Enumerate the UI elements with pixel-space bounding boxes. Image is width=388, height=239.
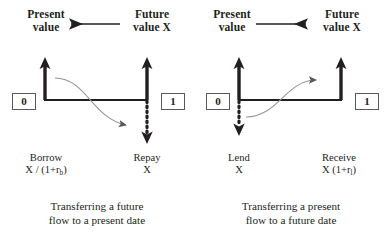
cashflow-bar-t0-up: [234, 57, 245, 100]
header-present-value-label: Present value: [14, 8, 78, 34]
flow-borrow-formula: X / (1+rb): [8, 164, 84, 176]
flow-lend-line2: X: [204, 164, 274, 176]
panel-lend: Present value Future value X 0 1 Lend X …: [194, 0, 388, 239]
flow-repay-label: Repay X: [114, 152, 180, 176]
header-present-line1: Present: [213, 8, 251, 20]
cashflow-bar-t1-up: [142, 57, 153, 100]
timeline-tick-1: 1: [161, 93, 185, 110]
flow-receive-label: Receive X (1+rl): [298, 152, 380, 176]
header-present-line2: value: [200, 21, 264, 34]
header-future-line2: value X: [118, 21, 186, 34]
flow-lend-line1: Lend: [228, 152, 250, 163]
cashflow-bar-t0-down-dotted: [233, 101, 244, 136]
flow-repay-line2: X: [114, 164, 180, 176]
flow-repay-line1: Repay: [133, 152, 160, 163]
header-present-value-label: Present value: [200, 8, 264, 34]
flow-borrow-label: Borrow X / (1+rb): [8, 152, 84, 176]
header-future-line2: value X: [308, 21, 376, 34]
transfer-curve-future-to-present: [55, 78, 126, 125]
header-future-value-label: Future value X: [118, 8, 186, 34]
cashflow-bar-t1-down-dotted: [141, 101, 152, 144]
timeline-tick-0: 0: [12, 93, 36, 110]
caption-borrow-line2: flow to a present date: [7, 214, 187, 228]
caption-borrow-line1: Transferring a future: [51, 200, 144, 212]
timeline-tick-0: 0: [206, 93, 230, 110]
flow-borrow-formula-pre: X / (1+r: [25, 164, 59, 175]
caption-lend: Transferring a present flow to a future …: [201, 200, 381, 227]
flow-lend-label: Lend X: [204, 152, 274, 176]
caption-lend-line1: Transferring a present: [242, 200, 340, 212]
header-future-line1: Future: [135, 8, 169, 20]
flow-receive-formula-post: ): [353, 164, 357, 175]
caption-borrow: Transferring a future flow to a present …: [7, 200, 187, 227]
flow-receive-line1: Receive: [322, 152, 356, 163]
panel-borrow: Present value Future value X 0 1 Borrow …: [0, 0, 194, 239]
flow-borrow-line1: Borrow: [30, 152, 62, 163]
header-future-value-label: Future value X: [308, 8, 376, 34]
timeline-tick-1: 1: [355, 93, 379, 110]
cashflow-bar-t0-up: [40, 57, 51, 100]
flow-receive-formula-pre: X (1+r: [322, 164, 351, 175]
header-present-line1: Present: [27, 8, 65, 20]
transfer-curve-present-to-future: [246, 80, 316, 117]
flow-receive-formula: X (1+rl): [298, 164, 380, 176]
header-future-line1: Future: [325, 8, 359, 20]
diagram-canvas: Present value Future value X 0 1 Borrow …: [0, 0, 388, 239]
flow-borrow-formula-post: ): [63, 164, 67, 175]
header-present-line2: value: [14, 21, 78, 34]
caption-lend-line2: flow to a future date: [201, 214, 381, 228]
cashflow-bar-t1-up: [336, 57, 347, 100]
